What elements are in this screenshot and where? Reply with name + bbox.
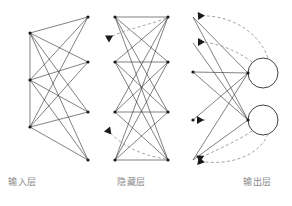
input-out-node bbox=[86, 158, 89, 161]
layer-label-row: 输入层 隐藏层 输出层 bbox=[0, 176, 292, 198]
hidden-layer-group bbox=[107, 15, 170, 161]
input-node bbox=[28, 125, 31, 128]
output-layer-edges bbox=[193, 17, 248, 160]
hidden-node bbox=[166, 110, 169, 113]
input-layer-group bbox=[28, 15, 89, 161]
output-circle bbox=[248, 58, 278, 88]
hidden-node bbox=[166, 158, 169, 161]
output-junction-node bbox=[246, 118, 249, 121]
output-circles bbox=[248, 58, 278, 135]
output-in-node bbox=[191, 118, 194, 121]
input-out-node bbox=[86, 15, 89, 18]
feedback-arrow-dashed bbox=[198, 131, 252, 159]
output-layer-feedback-arrows bbox=[198, 16, 268, 163]
input-layer-edges bbox=[30, 17, 88, 160]
feedback-arrow-dashed bbox=[198, 42, 252, 62]
input-node bbox=[28, 78, 31, 81]
feedback-arrow-dashed bbox=[107, 129, 166, 159]
hidden-node bbox=[113, 110, 116, 113]
input-out-node bbox=[86, 110, 89, 113]
hidden-node bbox=[166, 15, 169, 18]
feedback-arrow-dashed bbox=[198, 134, 268, 162]
input-out-node bbox=[86, 60, 89, 63]
hidden-layer-label: 隐藏层 bbox=[117, 176, 146, 188]
output-layer-label: 输出层 bbox=[243, 176, 272, 188]
output-junction-node bbox=[246, 71, 249, 74]
hidden-node bbox=[113, 60, 116, 63]
hidden-node bbox=[166, 60, 169, 63]
hidden-node bbox=[113, 15, 116, 18]
input-layer-label: 输入层 bbox=[8, 176, 37, 188]
hidden-node bbox=[113, 158, 116, 161]
hidden-layer-feedback-arrows bbox=[107, 18, 166, 159]
input-layer-nodes bbox=[28, 15, 89, 161]
feedback-arrow-dashed bbox=[198, 16, 268, 58]
input-node bbox=[28, 31, 31, 34]
hidden-layer-edges bbox=[115, 17, 168, 160]
output-circle bbox=[248, 105, 278, 135]
output-layer-group bbox=[191, 16, 278, 163]
output-in-node bbox=[191, 70, 194, 73]
neural-network-diagram: 输入层 隐藏层 输出层 bbox=[0, 0, 292, 206]
